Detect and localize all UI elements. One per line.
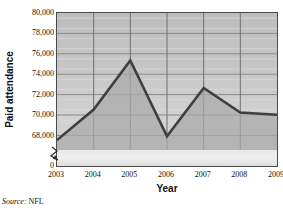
data-series-area [57,13,277,166]
y-tick-label: 72,000 [8,91,54,99]
x-tick-label: 2004 [76,170,110,180]
y-tick-label: 78,000 [8,29,54,37]
source-value: NFL [29,197,44,206]
x-tick-label: 2009 [259,170,283,180]
source-note: Source: NFL [2,197,44,206]
y-tick-label: 68,000 [8,132,54,140]
source-label: Source: [2,197,27,206]
x-tick-label: 2008 [222,170,256,180]
x-tick-label: 2006 [149,170,183,180]
axis-break-band [56,150,278,167]
chart-title [70,0,220,2]
x-axis-tick-labels: 2003 2004 2005 2006 2007 2008 2009 [56,170,278,182]
chart-container: Paid attendance 80,000 78,000 76,000 74,… [0,0,283,211]
y-tick-label: 74,000 [8,70,54,78]
plot-area [56,12,278,167]
x-tick-label: 2005 [112,170,146,180]
y-tick-label: 70,000 [8,111,54,119]
y-axis-tick-labels: 80,000 78,000 76,000 74,000 72,000 70,00… [4,0,54,180]
axis-break-icon [49,146,63,162]
x-tick-label: 2007 [186,170,220,180]
y-tick-label: 80,000 [8,9,54,17]
x-axis-title: Year [56,183,278,194]
y-tick-label: 76,000 [8,50,54,58]
y-tick-label: 0 [8,162,54,170]
x-tick-label: 2003 [39,170,73,180]
